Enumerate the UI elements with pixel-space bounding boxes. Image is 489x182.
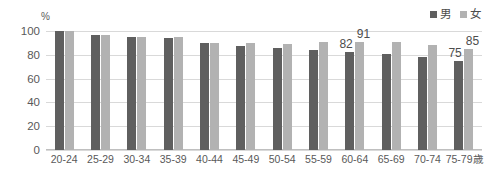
plot-area: 82917585 bbox=[46, 31, 482, 150]
bar-female[interactable] bbox=[392, 42, 401, 150]
bar-group: 8291 bbox=[337, 31, 373, 150]
bar-group bbox=[409, 31, 445, 150]
bar-female[interactable] bbox=[428, 45, 437, 150]
bar-wrapper: 75 bbox=[454, 31, 463, 150]
bar-wrapper bbox=[428, 31, 437, 150]
bar-wrapper bbox=[164, 31, 173, 150]
x-axis-tick-label: 45-49 bbox=[228, 154, 264, 165]
bar-male[interactable] bbox=[55, 31, 64, 150]
bar-wrapper bbox=[319, 31, 328, 150]
bar-value-label: 91 bbox=[357, 28, 370, 40]
bar-group bbox=[46, 31, 82, 150]
bar-male[interactable] bbox=[382, 54, 391, 150]
bar-value-label: 85 bbox=[466, 35, 479, 47]
gridline bbox=[46, 150, 482, 151]
bar-wrapper bbox=[101, 31, 110, 150]
bar-wrapper bbox=[392, 31, 401, 150]
legend-entry-female[interactable]: 女 bbox=[460, 9, 481, 21]
bar-female[interactable] bbox=[355, 42, 364, 150]
y-axis-tick-label: 80 bbox=[0, 50, 40, 62]
chart-legend: 男 女 bbox=[430, 9, 481, 21]
bar-wrapper bbox=[246, 31, 255, 150]
bar-group bbox=[300, 31, 336, 150]
bar-male[interactable] bbox=[454, 61, 463, 150]
x-axis-tick-label: 65-69 bbox=[373, 154, 409, 165]
bar-male[interactable] bbox=[127, 37, 136, 150]
x-axis-tick-label: 20-24 bbox=[46, 154, 82, 165]
x-axis-tick-label: 50-54 bbox=[264, 154, 300, 165]
bar-wrapper bbox=[210, 31, 219, 150]
y-axis-tick-label: 0 bbox=[0, 145, 40, 157]
bar-wrapper bbox=[55, 31, 64, 150]
bar-male[interactable] bbox=[273, 48, 282, 150]
bar-female[interactable] bbox=[464, 49, 473, 150]
bar-wrapper bbox=[382, 31, 391, 150]
bar-value-label: 75 bbox=[448, 47, 461, 59]
bar-group bbox=[82, 31, 118, 150]
bar-wrapper bbox=[236, 31, 245, 150]
bar-wrapper: 91 bbox=[355, 31, 364, 150]
bar-male[interactable] bbox=[309, 50, 318, 150]
legend-label-female: 女 bbox=[470, 9, 481, 21]
bar-female[interactable] bbox=[283, 44, 292, 150]
bar-male[interactable] bbox=[418, 57, 427, 150]
bar-male[interactable] bbox=[236, 46, 245, 150]
bar-group bbox=[264, 31, 300, 150]
bar-group bbox=[155, 31, 191, 150]
bar-female[interactable] bbox=[101, 35, 110, 150]
legend-entry-male[interactable]: 男 bbox=[430, 9, 451, 21]
y-axis-tick-label: 60 bbox=[0, 74, 40, 86]
bar-wrapper: 82 bbox=[345, 31, 354, 150]
bar-chart: % 男 女 82917585 20-2425-2930-3435-3940-44… bbox=[0, 0, 489, 182]
y-axis-tick-label: 40 bbox=[0, 97, 40, 109]
x-axis-tick-label: 75-79歳 bbox=[446, 154, 482, 165]
bar-group bbox=[119, 31, 155, 150]
bar-female[interactable] bbox=[174, 37, 183, 150]
bar-female[interactable] bbox=[319, 42, 328, 150]
x-axis-tick-label: 35-39 bbox=[155, 154, 191, 165]
legend-swatch-female bbox=[460, 11, 467, 18]
bar-wrapper bbox=[418, 31, 427, 150]
x-axis-tick-label: 30-34 bbox=[119, 154, 155, 165]
bar-male[interactable] bbox=[164, 38, 173, 150]
x-axis-tick-label: 40-44 bbox=[191, 154, 227, 165]
bar-female[interactable] bbox=[137, 37, 146, 150]
bar-wrapper bbox=[200, 31, 209, 150]
bar-group: 7585 bbox=[446, 31, 482, 150]
y-axis-tick-label: 20 bbox=[0, 121, 40, 133]
y-axis-unit-label: % bbox=[41, 11, 50, 22]
bar-wrapper bbox=[127, 31, 136, 150]
bar-male[interactable] bbox=[91, 35, 100, 150]
bar-group bbox=[228, 31, 264, 150]
legend-label-male: 男 bbox=[440, 9, 451, 21]
bar-male[interactable] bbox=[345, 52, 354, 150]
bar-group bbox=[191, 31, 227, 150]
bar-wrapper: 85 bbox=[464, 31, 473, 150]
bar-wrapper bbox=[91, 31, 100, 150]
x-axis-tick-label: 55-59 bbox=[300, 154, 336, 165]
bar-wrapper bbox=[65, 31, 74, 150]
bar-group bbox=[373, 31, 409, 150]
y-axis-tick-label: 100 bbox=[0, 26, 40, 38]
bar-female[interactable] bbox=[65, 31, 74, 150]
x-axis-tick-label: 70-74 bbox=[409, 154, 445, 165]
bar-wrapper bbox=[137, 31, 146, 150]
bar-wrapper bbox=[174, 31, 183, 150]
bar-male[interactable] bbox=[200, 43, 209, 150]
bar-wrapper bbox=[309, 31, 318, 150]
x-axis-tick-label: 25-29 bbox=[82, 154, 118, 165]
legend-swatch-male bbox=[430, 11, 437, 18]
bar-female[interactable] bbox=[210, 43, 219, 150]
bar-female[interactable] bbox=[246, 43, 255, 150]
bar-value-label: 82 bbox=[339, 38, 352, 50]
x-axis-tick-label: 60-64 bbox=[337, 154, 373, 165]
bar-wrapper bbox=[283, 31, 292, 150]
x-axis-labels: 20-2425-2930-3435-3940-4445-4950-5455-59… bbox=[46, 154, 482, 174]
bar-wrapper bbox=[273, 31, 282, 150]
